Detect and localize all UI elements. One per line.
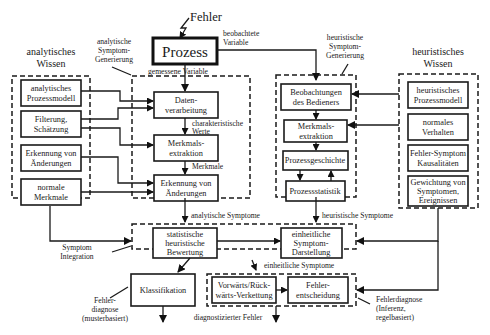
analytic-generation-title-2: Symptom- — [98, 46, 131, 55]
normal-features-label-2: Merkmale — [34, 193, 68, 202]
analytic-generation-title-3: Generierung — [95, 55, 133, 64]
heuristic-generation-title-3: Generierung — [326, 51, 364, 60]
rule-diagnosis-label-1: Fehlerdiagnose — [376, 295, 423, 304]
pattern-diagnosis-pointer — [110, 287, 128, 298]
heuristic-process-model-label-1: heuristisches — [417, 86, 460, 95]
observed-variable-label-2: Variable — [223, 38, 249, 47]
fault-symptom-causality-label-1: Fehler-Symptom — [410, 149, 467, 158]
chaining-label-2: wärts-Verkettung — [215, 291, 272, 300]
heuristic-knowledge-title-2: Wissen — [423, 58, 452, 69]
heuristic-process-model-label-2: Prozessmodell — [414, 96, 463, 105]
heuristic-generation-title-2: Symptom- — [329, 42, 362, 51]
fault-decision-label-2: entscheidung — [296, 291, 340, 300]
feature-extraction-analytic-label-2: extraktion — [169, 149, 203, 158]
heuristic-generation-pointer — [342, 64, 348, 74]
unified-symptoms-arrow — [252, 260, 256, 270]
fault-lightning-icon — [180, 18, 189, 38]
filtering-estimation-label-1: Filterung, — [35, 115, 68, 124]
analytic-process-model-label-2: Prozessmodell — [27, 94, 76, 103]
heuristic-knowledge-title-1: heuristisches — [412, 46, 464, 57]
rule-diagnosis-label-3: regelbasiert) — [376, 313, 414, 322]
process-label: Prozess — [162, 44, 208, 60]
analytic-process-model-label-1: analytisches — [31, 84, 72, 93]
pattern-diagnosis-label-3: (musterbasiert) — [82, 314, 128, 323]
pattern-diagnosis-label-2: diagnose — [92, 305, 120, 314]
evaluation-label-1: statistische — [167, 230, 204, 239]
representation-label-1: einheitliche — [292, 230, 331, 239]
fault-decision-label-1: Fehler- — [306, 281, 330, 290]
normal-features-label-1: normale — [37, 183, 65, 192]
feature-extraction-heuristic-label-2: extraktion — [299, 132, 333, 141]
analytic-knowledge-title-2: Wissen — [36, 58, 65, 69]
heuristic-symptoms-label: heuristische Symptome — [322, 211, 394, 220]
observed-variable-label-1: beobachtete — [223, 29, 260, 38]
arrow-change-to-detection — [81, 157, 153, 183]
fault-symptom-causality-label-2: Kausalitäten — [417, 159, 459, 168]
change-detection-knowledge-label-2: Änderungen — [30, 159, 72, 168]
arrow-filter-to-extraction — [81, 128, 153, 145]
rule-diagnosis-pointer — [358, 298, 370, 304]
analytic-generation-title-1: analytische — [97, 37, 132, 46]
operator-observations-label-2: des Bedieners — [293, 98, 339, 107]
process-history-label: Prozessgeschichte — [285, 156, 346, 165]
arrow-filter-to-processing — [81, 108, 153, 119]
normal-behavior-label-1: normales — [423, 118, 453, 127]
change-detection-label-2: Änderungen — [165, 189, 207, 198]
rule-diagnosis-label-2: (Inferenz, — [376, 304, 406, 313]
measured-variable-label: gemessene Variable — [148, 67, 209, 76]
chaining-label-1: Vorwärts/Rück- — [218, 281, 271, 290]
arrow-analytic-knowledge-to-integration — [50, 206, 131, 241]
feature-extraction-heuristic-label-1: Merkmals- — [298, 122, 335, 131]
symptom-weighting-label-3: Ereignissen — [419, 196, 459, 205]
representation-label-3: Darstellung — [292, 248, 331, 257]
symptom-integration-label-1: Symptom — [62, 243, 92, 252]
data-processing-label-2: verarbeitung — [165, 106, 207, 115]
features-label: Merkmale — [192, 162, 224, 171]
normal-behavior-label-2: Verhalten — [422, 128, 455, 137]
data-processing-label-1: Daten- — [175, 96, 198, 105]
arrow-evaluation-to-classification — [178, 258, 190, 272]
analytic-knowledge-title-1: analytisches — [27, 46, 76, 57]
evaluation-label-2: heuristische — [165, 239, 205, 248]
fault-input-label: Fehler — [190, 10, 223, 24]
analytic-generation-pointer — [112, 67, 131, 75]
symptom-weighting-label-1: Gewichtung von — [410, 178, 466, 187]
operator-observations-label-1: Beobachtungen — [290, 88, 342, 97]
arrow-model-to-processing — [81, 91, 153, 101]
change-detection-knowledge-label-1: Erkennung von — [26, 149, 78, 158]
filtering-estimation-label-2: Schätzung — [34, 125, 69, 134]
diagnosed-fault-label: diagnostizierter Fehler — [194, 313, 263, 322]
evaluation-label-3: Bewertung — [167, 248, 203, 257]
analytic-symptoms-label: analytische Symptome — [191, 211, 261, 220]
fault-diagnosis-diagram: Fehler Prozess beobachtete Variable geme… — [0, 0, 490, 335]
pattern-diagnosis-label-1: Fehler- — [94, 296, 116, 305]
heuristic-generation-title-1: heuristische — [327, 33, 364, 42]
change-detection-label-1: Erkennung von — [161, 179, 213, 188]
symptom-weighting-label-2: Symptomen, — [417, 187, 459, 196]
symptom-integration-label-2: Integration — [60, 252, 94, 261]
process-statistics-label: Prozessstatistik — [289, 187, 341, 196]
arrow-heuristic-knowledge-to-inference — [357, 241, 438, 290]
feature-extraction-analytic-label-1: Merkmals- — [168, 139, 205, 148]
integration-pointer — [112, 246, 131, 252]
representation-label-2: Symptom- — [293, 239, 328, 248]
unified-symptoms-label: einheitliche Symptome — [264, 261, 335, 270]
classification-label: Klassifikation — [140, 286, 187, 295]
